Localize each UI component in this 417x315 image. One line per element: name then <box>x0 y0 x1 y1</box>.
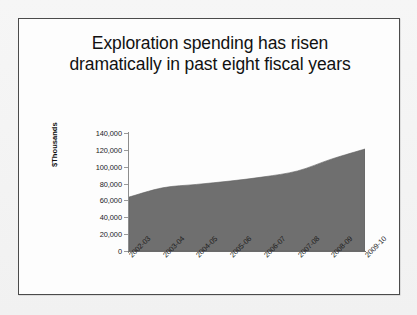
y-axis-tick-mark <box>124 234 128 235</box>
area-chart: $Thousands 020,00040,00060,00080,000100,… <box>56 89 386 289</box>
y-axis-tick-label: 40,000 <box>70 213 122 222</box>
y-axis-tick-mark <box>124 150 128 151</box>
y-axis-tick-label: 60,000 <box>70 196 122 205</box>
y-axis-tick-mark <box>124 133 128 134</box>
y-axis-tick-mark <box>124 184 128 185</box>
y-axis-tick-mark <box>124 167 128 168</box>
chart-title: Exploration spending has risen dramatica… <box>19 33 401 75</box>
y-axis-tick-label: 120,000 <box>70 145 122 154</box>
y-axis-tick-label: 100,000 <box>70 162 122 171</box>
y-axis-tick-label: 20,000 <box>70 230 122 239</box>
y-axis-tick-mark <box>124 200 128 201</box>
slide-frame: Exploration spending has risen dramatica… <box>18 18 400 295</box>
y-axis-tick-mark <box>124 217 128 218</box>
y-axis-tick-mark <box>124 251 128 252</box>
y-axis-tick-label: 140,000 <box>70 129 122 138</box>
x-axis-tick-label: 2009-10 <box>363 234 388 259</box>
y-axis-tick-label: 80,000 <box>70 179 122 188</box>
y-axis-tick-label: 0 <box>70 247 122 256</box>
x-axis-tick-labels: 2002-032003-042004-052005-062006-072007-… <box>129 253 365 293</box>
y-axis-tick-labels: 020,00040,00060,00080,000100,000120,0001… <box>56 89 122 289</box>
